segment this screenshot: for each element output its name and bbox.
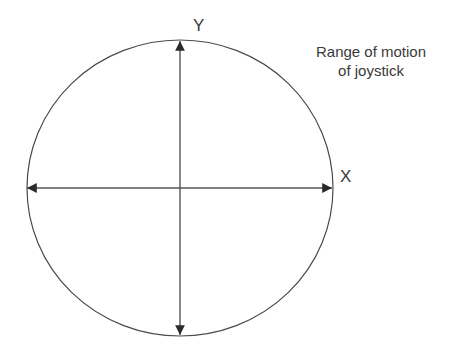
caption: Range of motion of joystick (296, 42, 446, 80)
y-axis-label: Y (193, 16, 204, 36)
caption-line-2: of joystick (296, 61, 446, 80)
x-axis-label: X (340, 167, 351, 187)
caption-line-1: Range of motion (296, 42, 446, 61)
